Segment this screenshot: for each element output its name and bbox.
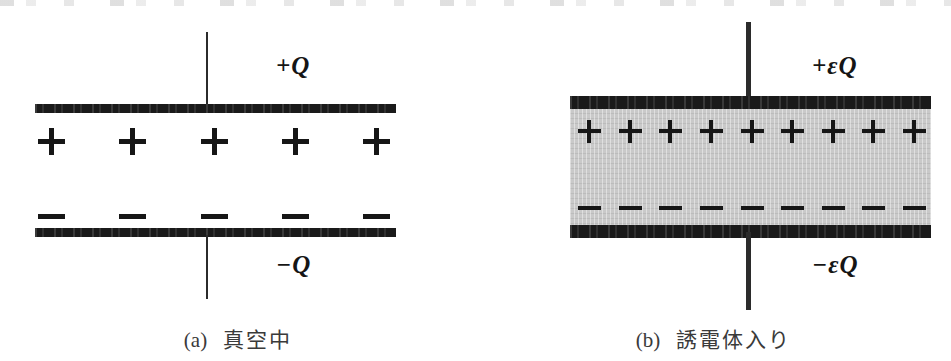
negative-charge-sign: [741, 206, 764, 210]
positive-charge-sign: [363, 128, 390, 155]
negative-charge-sign: [700, 206, 723, 210]
negative-charge-row: [578, 196, 926, 219]
positive-charge-sign: [822, 120, 845, 143]
positive-charge-sign: [282, 128, 309, 155]
capacitor-figure: +Q −Q (a)真空中 +εQ −εQ (b)誘電体入り: [0, 0, 951, 361]
top-charge-label: +Q: [276, 52, 310, 80]
bottom-lead-wire: [746, 232, 751, 310]
negative-charge-sign: [578, 206, 601, 210]
panel-caption: (b)誘電体入り: [476, 323, 951, 353]
panel-caption: (a)真空中: [0, 323, 476, 353]
panel-tag: (a): [184, 328, 207, 352]
positive-charge-sign: [119, 128, 146, 155]
positive-charge-sign: [38, 128, 65, 155]
top-lead-wire: [746, 22, 751, 104]
panel-caption-text: 真空中: [223, 328, 292, 352]
bottom-lead-wire: [206, 235, 208, 299]
positive-charge-sign: [781, 120, 804, 143]
bottom-charge-label: −Q: [276, 251, 311, 279]
panel-dielectric: +εQ −εQ (b)誘電体入り: [476, 0, 951, 361]
positive-charge-row: [578, 120, 926, 143]
top-capacitor-plate: [570, 96, 931, 109]
positive-charge-sign: [741, 120, 764, 143]
bottom-capacitor-plate: [35, 228, 396, 237]
negative-charge-sign: [822, 206, 845, 210]
top-lead-wire: [206, 32, 208, 108]
negative-charge-sign: [282, 214, 309, 219]
panel-tag: (b): [636, 328, 661, 352]
positive-charge-sign: [619, 120, 642, 143]
positive-charge-sign: [201, 128, 228, 155]
negative-charge-sign: [862, 206, 885, 210]
negative-charge-row: [38, 203, 390, 230]
positive-charge-row: [38, 128, 390, 155]
negative-charge-sign: [38, 214, 65, 219]
positive-charge-sign: [862, 120, 885, 143]
negative-charge-sign: [363, 214, 390, 219]
negative-charge-sign: [659, 206, 682, 210]
negative-charge-sign: [903, 206, 926, 210]
positive-charge-sign: [659, 120, 682, 143]
bottom-charge-label: −εQ: [812, 251, 858, 279]
negative-charge-sign: [619, 206, 642, 210]
positive-charge-sign: [700, 120, 723, 143]
panel-vacuum: +Q −Q (a)真空中: [0, 0, 476, 361]
positive-charge-sign: [578, 120, 601, 143]
negative-charge-sign: [119, 214, 146, 219]
positive-charge-sign: [903, 120, 926, 143]
negative-charge-sign: [201, 214, 228, 219]
panel-caption-text: 誘電体入り: [676, 328, 791, 352]
top-capacitor-plate: [35, 104, 396, 113]
top-charge-label: +εQ: [812, 52, 858, 80]
negative-charge-sign: [781, 206, 804, 210]
